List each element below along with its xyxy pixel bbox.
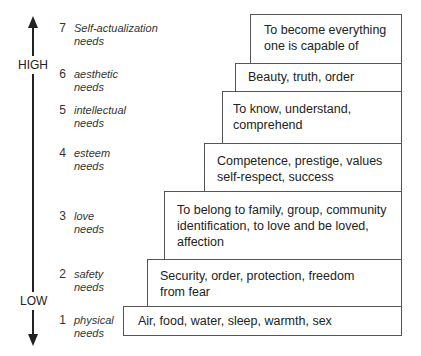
- level-4-box: Competence, prestige, values self-respec…: [204, 143, 402, 192]
- level-1-box: Air, food, water, sleep, warmth, sex: [123, 306, 402, 336]
- level-1-name: physical needs: [74, 314, 114, 340]
- level-name-line2: needs: [74, 81, 118, 94]
- high-label: HIGH: [18, 56, 48, 74]
- level-name-line2: needs: [74, 281, 104, 294]
- level-1-number: 1: [52, 313, 66, 327]
- level-name-line1: intellectual: [74, 104, 126, 117]
- description-line: To become everything: [264, 22, 401, 38]
- level-3-number: 3: [52, 209, 66, 223]
- level-4-number: 4: [52, 146, 66, 160]
- level-name-line1: love: [74, 210, 104, 223]
- description-line: identification, to love and be loved,: [177, 218, 401, 234]
- description-line: To belong to family, group, community: [177, 202, 401, 218]
- description-line: Beauty, truth, order: [248, 69, 401, 85]
- level-4-name: esteem needs: [74, 147, 110, 173]
- description-line: Air, food, water, sleep, warmth, sex: [138, 313, 401, 329]
- description-line: affection: [177, 234, 401, 250]
- level-6-number: 6: [52, 67, 66, 81]
- level-2-number: 2: [52, 267, 66, 281]
- level-3-box: To belong to family, group, community id…: [164, 191, 402, 260]
- level-5-name: intellectual needs: [74, 104, 126, 130]
- description-line: comprehend: [233, 117, 401, 133]
- level-name-line1: Self-actualization: [74, 22, 158, 35]
- level-2-box: Security, order, protection, freedom fro…: [147, 259, 402, 307]
- level-7-number: 7: [52, 21, 66, 35]
- level-name-line2: needs: [74, 35, 158, 48]
- level-5-box: To know, understand, comprehend: [222, 91, 402, 144]
- description-line: To know, understand,: [233, 101, 401, 117]
- level-name-line1: safety: [74, 268, 104, 281]
- level-7-name: Self-actualization needs: [74, 22, 158, 48]
- level-5-number: 5: [52, 103, 66, 117]
- description-line: Competence, prestige, values: [217, 153, 401, 169]
- description-line: from fear: [160, 284, 401, 300]
- level-name-line1: aesthetic: [74, 68, 118, 81]
- level-name-line2: needs: [74, 223, 104, 236]
- description-line: self-respect, success: [217, 169, 401, 185]
- level-name-line2: needs: [74, 327, 114, 340]
- level-name-line1: physical: [74, 314, 114, 327]
- level-6-box: Beauty, truth, order: [235, 63, 402, 92]
- level-name-line1: esteem: [74, 147, 110, 160]
- level-3-name: love needs: [74, 210, 104, 236]
- level-7-box: To become everything one is capable of: [250, 14, 402, 64]
- level-6-name: aesthetic needs: [74, 68, 118, 94]
- description-line: Security, order, protection, freedom: [160, 268, 401, 284]
- arrow-down-icon: [28, 334, 38, 346]
- description-line: one is capable of: [264, 38, 401, 54]
- level-name-line2: needs: [74, 160, 110, 173]
- level-name-line2: needs: [74, 117, 126, 130]
- low-label: LOW: [20, 292, 47, 310]
- level-2-name: safety needs: [74, 268, 104, 294]
